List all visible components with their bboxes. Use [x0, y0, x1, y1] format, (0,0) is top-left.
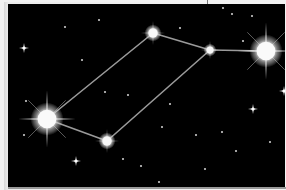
background-star-dot	[80, 58, 83, 61]
constellation-line	[153, 33, 210, 50]
constellation-line	[47, 33, 153, 119]
constellation-star-e	[237, 22, 285, 79]
background-star-dot	[221, 6, 224, 9]
background-star-dot	[157, 180, 160, 183]
background-star-dot	[268, 140, 271, 143]
background-star-dot	[250, 14, 253, 17]
background-star-dot	[230, 12, 233, 15]
background-star-dot	[97, 18, 100, 21]
constellation-star-a	[18, 90, 75, 147]
background-star-dot	[168, 102, 171, 105]
background-star-dot	[178, 26, 181, 29]
star-core	[149, 29, 158, 38]
sparkle-core	[282, 89, 285, 92]
constellation-graphic	[8, 4, 285, 187]
background-star-dot	[203, 167, 206, 170]
background-star-dot	[24, 99, 27, 102]
sparkle-star-icon	[19, 43, 29, 53]
background-star-dot	[194, 133, 197, 136]
night-sky	[8, 4, 285, 187]
sparkle-star-icon	[248, 104, 258, 114]
constellation-star-c	[141, 21, 165, 45]
sparkle-star-icon	[71, 156, 81, 166]
star-core	[38, 110, 57, 129]
constellation-line	[107, 50, 210, 141]
background-star-dot	[121, 157, 124, 160]
sparkle-core	[22, 46, 25, 49]
frame-bottom-edge	[8, 187, 286, 189]
sparkle-core	[251, 107, 254, 110]
background-star-dot	[220, 130, 223, 133]
background-star-dot	[139, 164, 142, 167]
background-star-dot	[160, 125, 163, 128]
sparkle-star-icon	[279, 86, 285, 96]
background-star-dot	[234, 149, 237, 152]
background-star-dot	[22, 133, 25, 136]
background-star-dot	[63, 25, 66, 28]
star-core	[257, 42, 276, 61]
star-core	[103, 137, 112, 146]
background-star-dot	[241, 39, 244, 42]
background-star-dot	[126, 93, 129, 96]
background-star-dot	[103, 90, 106, 93]
star-core	[207, 47, 214, 54]
sparkle-core	[74, 159, 77, 162]
